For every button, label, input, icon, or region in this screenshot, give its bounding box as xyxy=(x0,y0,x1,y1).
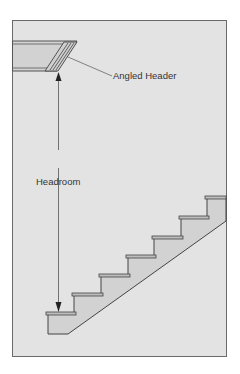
stair-tread xyxy=(152,236,183,239)
stair-tread xyxy=(72,293,103,296)
stair-tread xyxy=(179,216,209,219)
angled-header-label: Angled Header xyxy=(113,70,176,81)
stair-tread xyxy=(99,274,130,277)
stair-tread xyxy=(205,196,226,199)
stair-headroom-diagram: Angled Header Headroom xyxy=(0,0,240,374)
stair-tread xyxy=(46,312,76,315)
headroom-label: Headroom xyxy=(36,176,80,187)
stair-tread xyxy=(126,255,156,258)
